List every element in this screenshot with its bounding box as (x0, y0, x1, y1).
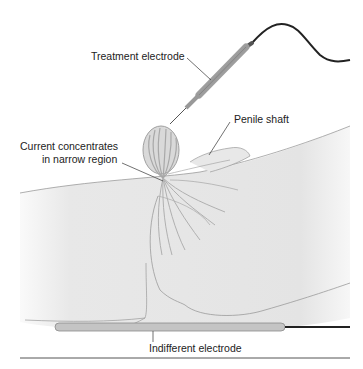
label-current-line2: in narrow region (42, 153, 117, 165)
label-penile-shaft: Penile shaft (234, 113, 289, 125)
label-indifferent-electrode: Indifferent electrode (149, 342, 242, 354)
label-treatment-electrode: Treatment electrode (91, 50, 185, 62)
treatment-electrode (170, 24, 350, 124)
label-current-line1: Current concentrates (20, 140, 118, 152)
